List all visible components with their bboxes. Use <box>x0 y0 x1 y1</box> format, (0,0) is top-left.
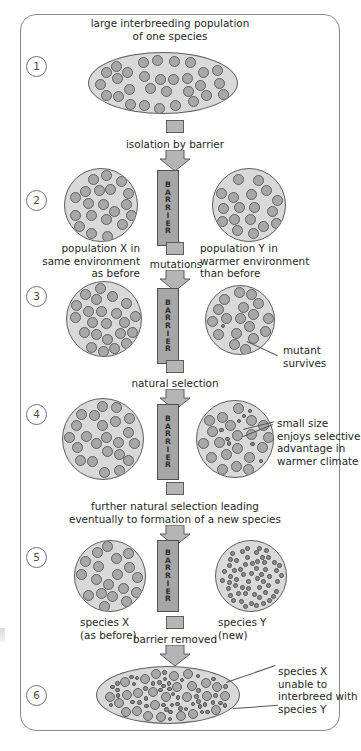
organism-large <box>96 588 107 599</box>
organism-large <box>234 202 245 213</box>
organism-large <box>113 437 124 448</box>
organism-small <box>226 586 231 591</box>
barrier-letter: R <box>165 227 171 235</box>
organism-large <box>70 210 81 221</box>
organism-small <box>228 593 233 598</box>
organism-small <box>168 710 173 715</box>
organism-large <box>75 455 86 466</box>
organism-small <box>170 703 175 708</box>
organism-small <box>137 700 142 705</box>
organism-large <box>121 298 132 309</box>
organism-large <box>123 427 134 438</box>
organism-large <box>96 306 107 317</box>
organism-large <box>143 711 153 721</box>
population-x-caption: population X in same environment as befo… <box>36 242 140 280</box>
population-y-stage3 <box>205 285 275 355</box>
organism-large <box>253 175 264 186</box>
organism-large <box>117 219 128 230</box>
organism-large <box>131 587 142 598</box>
organism-small <box>279 573 284 578</box>
organism-small <box>233 583 238 588</box>
organism-large <box>87 317 98 328</box>
organism-large <box>97 420 108 431</box>
organism-small <box>178 706 183 711</box>
organism-large <box>198 438 209 449</box>
barrier-letter: R <box>165 461 171 469</box>
organism-large <box>219 294 230 305</box>
organism-large <box>257 442 268 453</box>
organism-small <box>218 701 223 706</box>
organism-large <box>101 90 112 101</box>
organism-large <box>114 465 125 476</box>
organism-large <box>95 79 106 90</box>
organism-large <box>201 90 212 101</box>
organism-large <box>72 442 83 453</box>
organism-small <box>198 704 203 709</box>
organism-small <box>257 585 262 590</box>
organism-small <box>271 594 276 599</box>
organism-large <box>83 306 94 317</box>
organism-large <box>240 344 251 355</box>
organism-large <box>126 210 137 221</box>
organism-small <box>243 562 248 567</box>
organism-large <box>172 682 182 692</box>
organism-small <box>211 677 216 682</box>
organism-small <box>240 549 245 554</box>
organism-small <box>249 571 254 576</box>
organism-small <box>196 674 201 679</box>
organism-large <box>70 312 81 323</box>
organism-small <box>257 546 262 551</box>
organism-large <box>233 403 244 414</box>
organism-large <box>123 188 134 199</box>
organism-large <box>202 691 212 701</box>
stage-number-3: 3 <box>26 286 47 307</box>
organism-small <box>167 687 172 692</box>
organism-large <box>154 103 165 114</box>
organism-large <box>235 313 246 324</box>
organism-large <box>70 192 81 203</box>
arrow-head-5 <box>159 645 191 667</box>
organism-small <box>246 579 251 584</box>
organism-large <box>94 185 105 196</box>
organism-small <box>243 604 248 609</box>
organism-large <box>161 86 172 97</box>
organism-small <box>250 442 255 447</box>
organism-small <box>275 579 280 584</box>
organism-large <box>258 221 269 232</box>
organism-small <box>231 598 236 603</box>
arrow-stem-4 <box>166 482 184 495</box>
organism-small <box>257 595 262 600</box>
organism-large <box>152 55 163 66</box>
organism-small <box>243 591 248 596</box>
organism-large <box>102 446 113 457</box>
organism-small <box>109 703 114 708</box>
organism-large <box>218 203 229 214</box>
organism-large <box>182 692 192 702</box>
organism-large <box>232 430 243 441</box>
organism-small <box>115 688 120 693</box>
organism-large <box>113 91 124 102</box>
organism-large <box>133 688 143 698</box>
organism-small <box>196 688 201 693</box>
organism-small <box>163 677 168 682</box>
organism-large <box>182 73 193 84</box>
organism-large <box>109 206 120 217</box>
organism-large <box>76 409 87 420</box>
organism-large <box>238 302 249 313</box>
organism-large <box>229 339 240 350</box>
organism-large <box>80 186 91 197</box>
organism-large <box>156 712 166 722</box>
arrow-label-further-selection: further natural selection leading eventu… <box>48 500 302 525</box>
organism-small <box>171 692 176 697</box>
organism-small <box>255 559 260 564</box>
organism-large <box>76 569 87 580</box>
population-x-stage3 <box>66 281 142 357</box>
organism-large <box>213 329 224 340</box>
organism-small <box>277 563 282 568</box>
organism-large <box>97 401 108 412</box>
organism-large <box>64 432 75 443</box>
organism-large <box>107 291 118 302</box>
stage-number-1: 1 <box>26 56 47 77</box>
organism-large <box>80 556 91 567</box>
organism-large <box>195 80 206 91</box>
